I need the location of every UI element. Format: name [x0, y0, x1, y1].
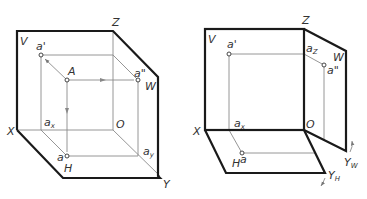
proj-line-ax-a: [229, 130, 242, 153]
label-a-z: aZ: [306, 42, 318, 56]
projection-diagram: V Z a' A a" W ax O X ay a H Y: [0, 0, 367, 199]
arrowhead-icon: [100, 78, 106, 82]
label-a: a: [240, 153, 247, 166]
arrow-to-a-prime: [45, 59, 67, 80]
label-a: a: [57, 151, 64, 164]
label-plane-V: V: [208, 33, 217, 46]
point-a-prime: [39, 53, 43, 57]
label-plane-V: V: [20, 35, 29, 48]
label-O: O: [306, 118, 315, 131]
plane-H-outline: [205, 130, 325, 173]
label-plane-H: H: [64, 162, 72, 175]
arrowhead-icon: [65, 108, 69, 114]
point-a: [65, 154, 69, 158]
label-a-prime: a': [227, 38, 237, 51]
label-O: O: [116, 118, 125, 131]
label-axis-X: X: [6, 125, 15, 138]
label-A: A: [67, 65, 76, 78]
label-axis-Z: Z: [111, 16, 120, 29]
label-plane-H: H: [232, 157, 240, 170]
left-three-plane-box: V Z a' A a" W ax O X ay a H Y: [6, 16, 171, 191]
point-a-double-prime: [322, 63, 326, 67]
point-A: [65, 78, 69, 82]
label-axis-Y: Y: [163, 178, 171, 191]
label-axis-X: X: [192, 125, 201, 138]
label-a-prime: a': [36, 40, 46, 53]
label-axis-Y-H: YH: [328, 169, 341, 183]
label-axis-Y-W: YW: [344, 156, 359, 170]
label-a-double-prime: a": [327, 64, 339, 77]
right-unfolded-planes: V Z a' aZ W a" ax O X a H YW YH: [192, 14, 359, 186]
plane-V-outline: [205, 29, 304, 130]
point-a-prime: [227, 52, 231, 56]
label-plane-W: W: [145, 80, 157, 93]
label-plane-W: W: [333, 51, 345, 64]
rotate-arrow-H-icon: [321, 178, 325, 186]
label-a-x: ax: [234, 117, 246, 131]
label-a-x: ax: [44, 116, 56, 130]
label-a-y: ay: [143, 145, 155, 159]
label-a-double-prime: a": [134, 67, 146, 80]
rotate-arrow-W-icon: [350, 141, 352, 152]
label-axis-Z: Z: [301, 14, 310, 27]
